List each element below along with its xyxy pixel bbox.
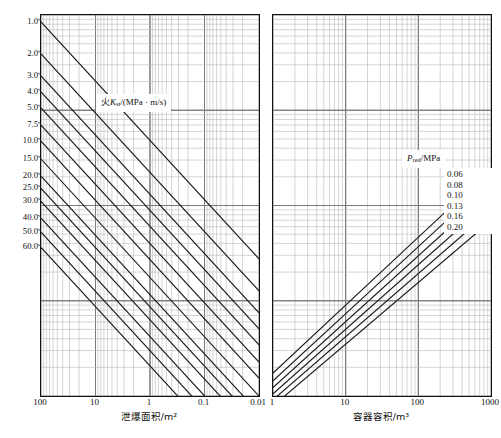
left-curves [41, 15, 259, 396]
left-series-label: 60.0 [23, 242, 38, 251]
right-series-label: 0.16 [447, 211, 493, 222]
left-plot-frame [40, 14, 260, 397]
left-series-label: 2.0 [27, 48, 38, 57]
left-xaxis-tick: 100 [33, 397, 47, 407]
right-legend-box: Pred/MPa [402, 150, 445, 168]
left-legend-prefix: 火 [101, 97, 110, 107]
left-series-label: 30.0 [23, 196, 38, 205]
right-legend-units: /MPa [421, 153, 441, 163]
left-xaxis-tick: 10 [90, 397, 99, 407]
right-xaxis-tick: 1 [270, 397, 275, 407]
right-legend-subscript: red [413, 156, 421, 163]
right-series-label: 0.10 [447, 190, 493, 201]
right-series-label: 0.13 [447, 201, 493, 212]
right-series-label: 0.20 [447, 222, 493, 233]
right-series-label: 0.08 [447, 180, 493, 191]
left-series-label: 25.0 [23, 183, 38, 192]
right-xaxis-tick: 10 [340, 397, 349, 407]
left-series-label: 3.0 [27, 70, 38, 79]
left-legend-units: /(MPa · m/s) [120, 97, 166, 107]
left-series-label: 15.0 [23, 154, 38, 163]
left-series-label: 50.0 [23, 227, 38, 236]
left-series-label: 1.0 [27, 16, 38, 25]
left-series-label: 4.0 [27, 86, 38, 95]
left-xaxis-tick: 0.1 [198, 397, 209, 407]
left-legend-box: 火Kst/(MPa · m/s) [96, 94, 171, 112]
right-xaxis-title: 容器容积/m³ [353, 411, 409, 422]
right-xaxis-tick: 100 [411, 397, 425, 407]
right-series-label: 0.06 [447, 169, 493, 180]
left-series-label: 5.0 [27, 102, 38, 111]
left-xaxis-title: 泄爆面积/m² [121, 411, 177, 422]
left-series-label: 20.0 [23, 171, 38, 180]
left-series-label: 40.0 [23, 213, 38, 222]
left-xaxis-tick: 1 [147, 397, 152, 407]
left-series-label: 10.0 [23, 136, 38, 145]
left-series-label: 7.5 [27, 120, 38, 129]
right-xaxis-tick: 1000 [481, 397, 499, 407]
left-xaxis-tick: 0.01 [250, 397, 266, 407]
right-series-labels: 0.060.080.100.130.160.20 [444, 168, 493, 234]
left-series-labels: 1.02.03.04.05.07.510.015.020.025.030.040… [0, 0, 38, 438]
